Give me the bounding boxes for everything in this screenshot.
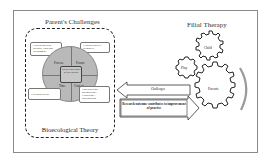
parents-gear-icon [195,62,235,108]
research-arrow-label: Research outcome contributes to improvem… [122,102,186,110]
arrows-and-gears [0,0,273,161]
challenges-arrow-label: Challenges [128,87,188,91]
child-gear-label: Child [204,46,212,50]
play-gear-label: Play [181,66,187,70]
parents-gear-label: Parents [208,87,218,91]
rotation-arc-icon [240,68,246,110]
